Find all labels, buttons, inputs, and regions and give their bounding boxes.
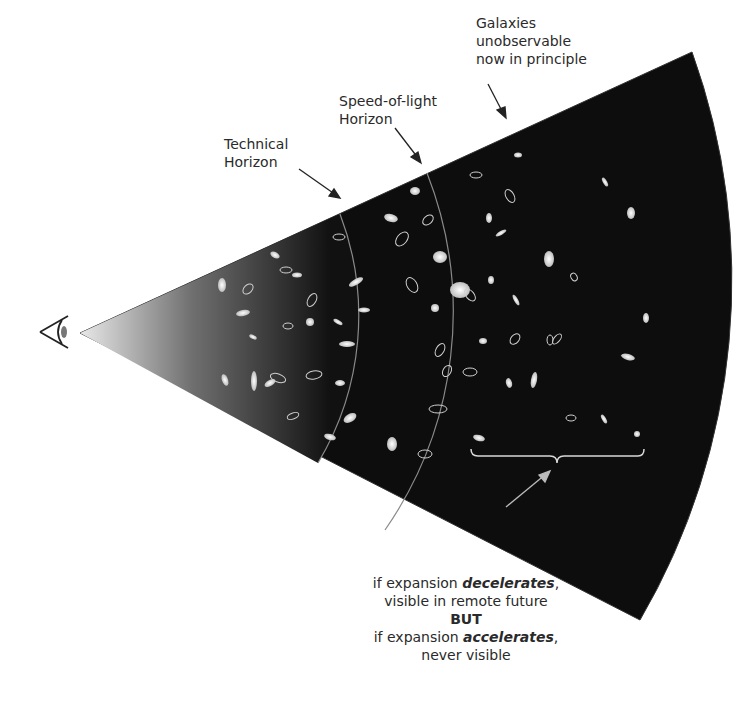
- speed-of-light-horizon-label: Speed-of-light Horizon: [339, 92, 437, 128]
- cone-near-gradient: [80, 214, 359, 463]
- galaxies-unobservable-label: Galaxies unobservable now in principle: [476, 14, 587, 68]
- expansion-footnote: if expansion decelerates, visible in rem…: [346, 574, 586, 664]
- technical-horizon-label: Technical Horizon: [224, 135, 288, 171]
- eye-icon: [40, 316, 68, 348]
